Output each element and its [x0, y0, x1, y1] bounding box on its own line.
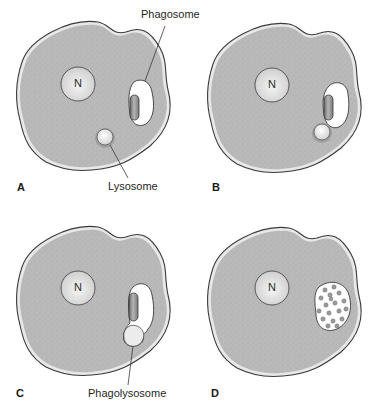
cell-diagram-a [0, 0, 189, 204]
panel-b: N B [189, 0, 378, 204]
panel-letter-c: C [16, 387, 24, 399]
panel-letter-d: D [211, 387, 219, 399]
lysosome-b [314, 124, 330, 140]
nucleus-label-d: N [262, 281, 282, 293]
panel-letter-a: A [17, 181, 25, 193]
cell-diagram-b [189, 0, 378, 204]
nucleus-label-c: N [68, 281, 88, 293]
bacterium-a [130, 95, 139, 120]
nucleus-label-b: N [262, 78, 282, 90]
panel-c: N Phagolysosome C [0, 205, 189, 409]
lysosome-label: Lysosome [108, 180, 158, 192]
panel-letter-b: B [212, 181, 220, 193]
panel-a: N Phagosome Lysosome A [0, 0, 189, 204]
phagocytosis-figure: N Phagosome Lysosome A N B [0, 0, 378, 409]
panel-d: N D [189, 205, 378, 409]
phagolysosome-label: Phagolysosome [88, 387, 166, 399]
nucleus-label-a: N [68, 77, 88, 89]
bacterium-c [129, 293, 138, 321]
cell-diagram-d [189, 205, 378, 409]
cell-diagram-c [0, 205, 189, 409]
lysosome-a [97, 129, 113, 145]
bacterium-b [324, 95, 333, 120]
